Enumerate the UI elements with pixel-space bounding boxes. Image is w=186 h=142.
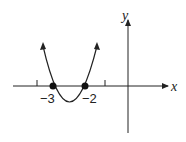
x-axis-label: x [170, 79, 178, 94]
root-point-neg3 [50, 83, 57, 90]
label-neg2: −2 [82, 91, 97, 106]
root-point-neg2 [82, 83, 89, 90]
label-neg3: −3 [40, 91, 55, 106]
y-axis-label: y [120, 8, 129, 23]
arrow-left-icon [40, 42, 46, 50]
arrow-right-icon [94, 42, 100, 50]
graph: −3 −2 x y [0, 0, 186, 142]
